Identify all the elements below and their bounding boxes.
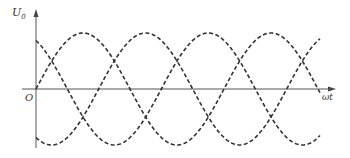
y-axis-arrow-icon (34, 9, 39, 17)
origin-label: O (25, 92, 33, 103)
y-label-main: U (12, 6, 21, 19)
x-axis-arrow-icon (328, 87, 336, 92)
y-label-subscript: 0 (21, 13, 25, 21)
y-axis-label: U0 (12, 6, 26, 21)
x-axis-label: ωt (322, 92, 333, 102)
three-phase-waveform-chart (0, 0, 350, 158)
